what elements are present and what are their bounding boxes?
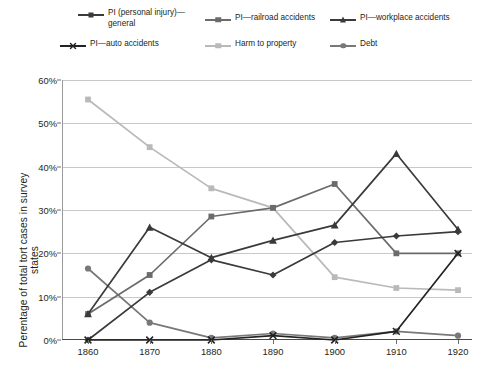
x-tick-mark [273,340,274,344]
legend-item-pi-workplace[interactable]: PI—workplace accidents [330,13,450,25]
data-point-marker [147,272,153,278]
series-line [88,184,458,314]
series-line [88,154,458,314]
y-tick-label: 60% [38,75,57,86]
legend-item-debt[interactable]: Debt [330,39,377,51]
series-pi-personal-injury-general [84,228,461,344]
data-point-marker [147,320,153,326]
legend-key-pi-auto [60,40,86,51]
y-tick-mark [57,296,61,297]
series-pi-auto-accidents [85,250,462,343]
y-tick-label: 10% [38,291,57,302]
square-marker [215,17,221,23]
x-tick-mark [335,340,336,344]
plot-canvas: 0%10%20%30%40%50%60% 1860187018801890190… [62,80,472,340]
series-lines [62,80,472,340]
data-point-marker [393,232,400,239]
chart-figure: PI (personal injury)—generalPI—railroad … [0,0,486,376]
data-point-marker [269,271,276,278]
x-tick-mark [150,340,151,344]
legend-item-label: PI—workplace accidents [360,13,450,24]
y-tick-mark [57,166,61,167]
x-tick-label: 1870 [139,346,160,357]
series-harm-to-property [85,97,461,293]
x-tick-mark [88,340,89,344]
data-point-marker [147,144,153,150]
circle-marker [340,43,346,49]
legend-key-pi-workplace [330,14,356,25]
y-tick-label: 30% [38,205,57,216]
x-marker [70,42,77,49]
chart-legend: PI (personal injury)—generalPI—railroad … [0,6,486,64]
data-point-marker [208,214,214,220]
data-point-marker [454,228,461,235]
legend-item-pi-general[interactable]: PI (personal injury)—general [78,8,185,29]
legend-key-debt [330,40,356,51]
legend-key-pi-railroad [205,14,231,25]
series-line [88,100,458,291]
y-tick-label: 40% [38,161,57,172]
chart-plot-area: Perentage of total tort cases in survey … [0,64,486,376]
legend-item-label: PI—railroad accidents [235,13,315,24]
legend-key-pi-general [78,9,104,20]
data-point-marker [332,181,338,187]
diamond-marker [89,12,94,17]
y-tick-mark [57,123,61,124]
legend-item-label: PI (personal injury)—general [108,8,185,29]
x-tick-label: 1880 [201,346,222,357]
x-tick-mark [211,340,212,344]
y-tick-mark [57,80,61,81]
square-marker [215,43,221,49]
series-pi-railroad-accidents [85,181,461,317]
x-tick-label: 1920 [448,346,469,357]
legend-item-label: Debt [360,39,377,50]
data-point-marker [208,185,214,191]
data-point-marker [85,265,91,271]
triangle-marker [340,16,346,22]
data-point-marker [455,333,461,339]
data-point-marker [455,287,461,293]
legend-item-label-line2: general [108,19,185,30]
legend-item-label: PI—auto accidents [90,39,159,50]
data-point-marker [331,239,338,246]
y-axis-label: Perentage of total tort cases in survey … [18,160,40,360]
legend-item-pi-railroad[interactable]: PI—railroad accidents [205,13,315,25]
data-point-marker [393,250,399,256]
y-tick-mark [57,340,61,341]
y-tick-label: 50% [38,118,57,129]
data-point-marker [332,274,338,280]
y-tick-label: 0% [43,335,57,346]
data-point-marker [146,223,154,230]
data-point-marker [392,150,400,157]
legend-key-harm-property [205,40,231,51]
data-point-marker [270,205,276,211]
data-point-marker [393,285,399,291]
x-tick-label: 1890 [263,346,284,357]
x-tick-mark [458,340,459,344]
data-point-marker [85,97,91,103]
x-tick-mark [396,340,397,344]
legend-item-pi-auto[interactable]: PI—auto accidents [60,39,159,51]
x-tick-label: 1900 [324,346,345,357]
series-pi-workplace-accidents [84,150,462,318]
y-tick-label: 20% [38,248,57,259]
y-tick-mark [57,210,61,211]
legend-item-label: Harm to property [235,39,296,50]
x-tick-label: 1860 [78,346,99,357]
x-tick-label: 1910 [386,346,407,357]
legend-item-harm-property[interactable]: Harm to property [205,39,296,51]
y-tick-mark [57,253,61,254]
